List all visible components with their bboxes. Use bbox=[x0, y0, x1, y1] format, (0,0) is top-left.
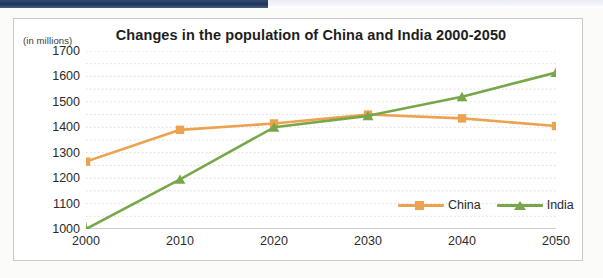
legend-label: China bbox=[448, 198, 481, 212]
x-axis-tick-label: 2000 bbox=[72, 234, 100, 248]
page-top-band bbox=[0, 0, 268, 8]
legend-marker bbox=[514, 201, 526, 210]
legend-marker bbox=[415, 201, 424, 210]
legend-item-china[interactable]: China bbox=[398, 198, 481, 212]
y-axis-tick-labels: 10001100120013001400150016001700 bbox=[22, 51, 80, 229]
data-point-china-2050 bbox=[552, 122, 556, 130]
x-axis-tick-labels: 200020102020203020402050 bbox=[86, 232, 556, 254]
page-top-band-tail bbox=[268, 0, 603, 6]
y-axis-tick-label: 1500 bbox=[26, 95, 80, 109]
x-axis-tick-label: 2040 bbox=[448, 234, 476, 248]
square-marker-icon bbox=[415, 201, 424, 210]
legend-swatch-india bbox=[497, 199, 543, 211]
legend-label: India bbox=[547, 198, 574, 212]
y-axis-tick-label: 1100 bbox=[26, 197, 80, 211]
y-axis-tick-label: 1700 bbox=[26, 44, 80, 58]
x-axis-tick-label: 2030 bbox=[354, 234, 382, 248]
y-axis-tick-label: 1300 bbox=[26, 146, 80, 160]
chart-container: (in millions) Changes in the population … bbox=[14, 19, 582, 260]
x-axis-tick-label: 2020 bbox=[260, 234, 288, 248]
legend-item-india[interactable]: India bbox=[497, 198, 574, 212]
chart-title: Changes in the population of China and I… bbox=[76, 27, 546, 43]
data-point-india-2010 bbox=[175, 174, 186, 183]
chart-legend: ChinaIndia bbox=[396, 197, 576, 213]
data-point-china-2010 bbox=[176, 126, 184, 134]
data-point-china-2000 bbox=[86, 157, 90, 165]
x-axis-tick-label: 2010 bbox=[166, 234, 194, 248]
y-axis-tick-label: 1400 bbox=[26, 120, 80, 134]
legend-swatch-china bbox=[398, 199, 444, 211]
y-axis-tick-label: 1600 bbox=[26, 69, 80, 83]
data-point-china-2040 bbox=[458, 114, 466, 122]
x-axis-tick-label: 2050 bbox=[542, 234, 570, 248]
y-axis-tick-label: 1200 bbox=[26, 171, 80, 185]
triangle-marker-icon bbox=[514, 201, 526, 210]
chart-frame: (in millions) Changes in the population … bbox=[13, 18, 583, 261]
